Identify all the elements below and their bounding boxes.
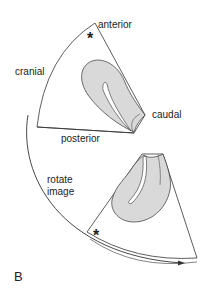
label-anterior: anterior [98,19,132,30]
panel-label: B [14,269,23,284]
diagram-canvas [0,0,208,291]
sector-rotated [87,154,197,264]
asterisk-marker-top: * [87,33,93,44]
asterisk-marker-bottom: * [93,230,99,241]
label-cranial: cranial [15,66,44,77]
label-image: image [47,186,74,197]
label-rotate: rotate [47,174,73,185]
label-caudal: caudal [152,109,181,120]
label-posterior: posterior [61,133,100,144]
